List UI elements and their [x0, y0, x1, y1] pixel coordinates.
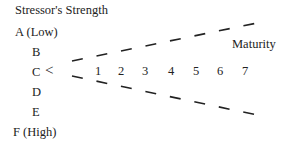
- upper-dashed-line: [72, 22, 262, 61]
- lower-dashed-line: [72, 76, 262, 116]
- divergence-lines: [0, 0, 289, 143]
